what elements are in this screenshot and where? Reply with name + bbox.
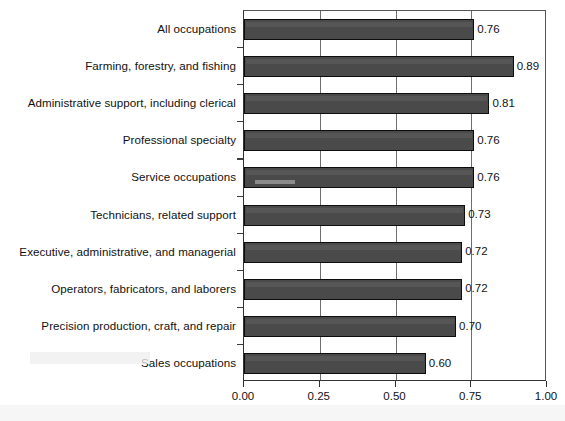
bar: [244, 205, 465, 226]
bar-row: 0.70: [244, 308, 545, 345]
bar-row: 0.60: [244, 345, 545, 382]
x-axis-tick-label: 0.50: [383, 390, 405, 402]
bar-row: 0.81: [244, 85, 545, 122]
bar-highlight: [246, 208, 463, 213]
bar: [244, 353, 426, 374]
bar: [244, 19, 474, 40]
bar: [244, 56, 514, 77]
plot-area: 0.760.890.810.760.760.730.720.720.700.60: [243, 10, 546, 381]
x-axis-tick: [546, 381, 547, 387]
x-axis-tick-label: 0.75: [459, 390, 481, 402]
category-label: Technicians, related support: [90, 196, 236, 233]
bar: [244, 130, 474, 151]
bar: [244, 316, 456, 337]
bar-value-label: 0.70: [459, 321, 481, 333]
bar-value-label: 0.60: [429, 358, 451, 370]
bar-chart: All occupationsFarming, forestry, and fi…: [0, 0, 565, 421]
category-label: Administrative support, including cleric…: [28, 84, 236, 121]
bar-highlight: [246, 282, 460, 287]
x-axis-tick-label: 0.25: [308, 390, 330, 402]
category-label: Sales occupations: [141, 344, 236, 381]
bar-value-label: 0.73: [468, 209, 490, 221]
bar-highlight: [246, 96, 487, 101]
bar-highlight: [246, 170, 472, 175]
x-axis-tick-label: 1.00: [535, 390, 557, 402]
x-axis-tick: [319, 381, 320, 387]
bar: [244, 93, 489, 114]
category-label: All occupations: [157, 10, 236, 47]
bar: [244, 167, 474, 188]
bar-value-label: 0.89: [517, 61, 539, 73]
bar-row: 0.72: [244, 271, 545, 308]
x-axis-tick: [395, 381, 396, 387]
bar-highlight: [246, 356, 424, 361]
category-label: Farming, forestry, and fishing: [85, 47, 236, 84]
bar-value-label: 0.81: [492, 98, 514, 110]
bar-row: 0.76: [244, 122, 545, 159]
bar-value-label: 0.76: [477, 172, 499, 184]
category-label: Professional specialty: [123, 121, 236, 158]
bar-value-label: 0.72: [465, 283, 487, 295]
bar-highlight: [246, 319, 454, 324]
bar-row: 0.72: [244, 234, 545, 271]
bar-value-label: 0.76: [477, 24, 499, 36]
x-axis-tick: [470, 381, 471, 387]
bar-value-label: 0.76: [477, 135, 499, 147]
cut-off-title-remnant: [180, 0, 380, 2]
bar-row: 0.89: [244, 48, 545, 85]
category-label: Executive, administrative, and manageria…: [19, 233, 236, 270]
x-axis-tick: [243, 381, 244, 387]
bar-value-label: 0.72: [465, 246, 487, 258]
x-axis-tick-label: 0.00: [232, 390, 254, 402]
bar-row: 0.76: [244, 11, 545, 48]
bar-highlight: [246, 133, 472, 138]
category-axis-labels: All occupationsFarming, forestry, and fi…: [0, 10, 236, 381]
category-label: Operators, fabricators, and laborers: [51, 270, 236, 307]
bar-rows: 0.760.890.810.760.760.730.720.720.700.60: [244, 11, 545, 380]
bar-row: 0.73: [244, 197, 545, 234]
bar-highlight: [246, 59, 512, 64]
bar: [244, 279, 462, 300]
category-label: Precision production, craft, and repair: [41, 307, 236, 344]
bar-row: 0.76: [244, 159, 545, 196]
bar-highlight: [246, 22, 472, 27]
bar-highlight: [246, 245, 460, 250]
scan-artifact: [0, 405, 565, 421]
category-label: Service occupations: [131, 158, 236, 195]
bar: [244, 242, 462, 263]
